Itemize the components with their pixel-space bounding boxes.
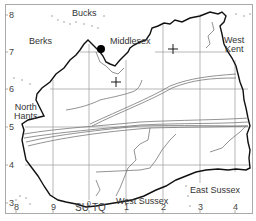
y-tick-label: 6 — [9, 85, 14, 94]
region-label-east-sussex: East Sussex — [190, 186, 240, 195]
crosshair-marker — [168, 44, 178, 54]
x-tick-label: 2 — [161, 203, 166, 212]
region-label-west-kent: West Kent — [224, 36, 244, 54]
y-tick-label: 5 — [9, 123, 14, 132]
x-tick-label: 1 — [124, 203, 129, 212]
grid-square-label-tq: TQ — [92, 203, 106, 213]
region-label-north-hants: North Hants — [14, 103, 38, 121]
x-tick-label: 4 — [233, 203, 238, 212]
region-label-line: Kent — [224, 45, 244, 54]
crosshair-marker — [111, 77, 121, 87]
y-tick-label: 8 — [9, 11, 14, 20]
region-label-berks: Berks — [29, 37, 52, 46]
x-tick-label: 8 — [14, 203, 19, 212]
x-tick-label: 3 — [198, 203, 203, 212]
region-label-middlesex: Middlesex — [110, 37, 151, 46]
x-tick-label: 9 — [51, 203, 56, 212]
y-tick-label: 4 — [9, 161, 14, 170]
region-label-bucks: Bucks — [72, 9, 97, 18]
location-marker — [97, 45, 105, 53]
x-tick-label: 0 — [87, 200, 91, 207]
region-label-line: Hants — [14, 112, 38, 121]
y-tick-label: 7 — [9, 48, 14, 57]
